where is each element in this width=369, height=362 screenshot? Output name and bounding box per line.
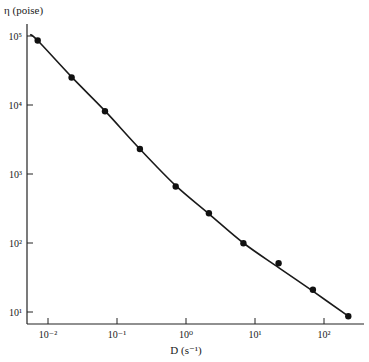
y-tick-label: 10² (9, 238, 22, 249)
data-point (275, 260, 281, 266)
data-point (173, 183, 179, 189)
x-tick-label: 10² (318, 329, 331, 340)
data-point (206, 210, 212, 216)
x-tick-label: 10⁻¹ (108, 329, 126, 340)
fit-curve-path (30, 35, 348, 317)
data-point (310, 287, 316, 293)
data-point (240, 240, 246, 246)
x-axis-label: D (s⁻¹) (170, 344, 202, 357)
y-tick-label: 10³ (9, 169, 22, 180)
y-axis-label: η (poise) (4, 4, 43, 17)
data-point (137, 146, 143, 152)
data-points (35, 37, 352, 319)
data-point (68, 74, 74, 80)
data-point (35, 37, 41, 43)
x-tick-label: 10¹ (249, 329, 262, 340)
viscosity-vs-shear-rate-chart: 10¹10²10³10⁴10⁵10⁻²10⁻¹10⁰10¹10² η (pois… (0, 0, 369, 362)
data-point (345, 313, 351, 319)
data-point (102, 108, 108, 114)
y-tick-label: 10⁴ (9, 100, 23, 111)
y-tick-label: 10⁵ (9, 31, 23, 42)
axes: 10¹10²10³10⁴10⁵10⁻²10⁻¹10⁰10¹10² (9, 24, 365, 340)
y-tick-label: 10¹ (9, 307, 22, 318)
x-tick-label: 10⁰ (179, 329, 193, 340)
fit-curve (30, 35, 348, 317)
x-tick-label: 10⁻² (39, 329, 57, 340)
